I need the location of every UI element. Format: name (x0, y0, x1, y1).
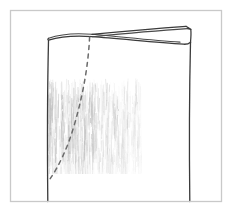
sketch-canvas (0, 0, 232, 212)
sketch-figure: Folded Paper Sketch Pencil line drawing … (0, 0, 232, 212)
